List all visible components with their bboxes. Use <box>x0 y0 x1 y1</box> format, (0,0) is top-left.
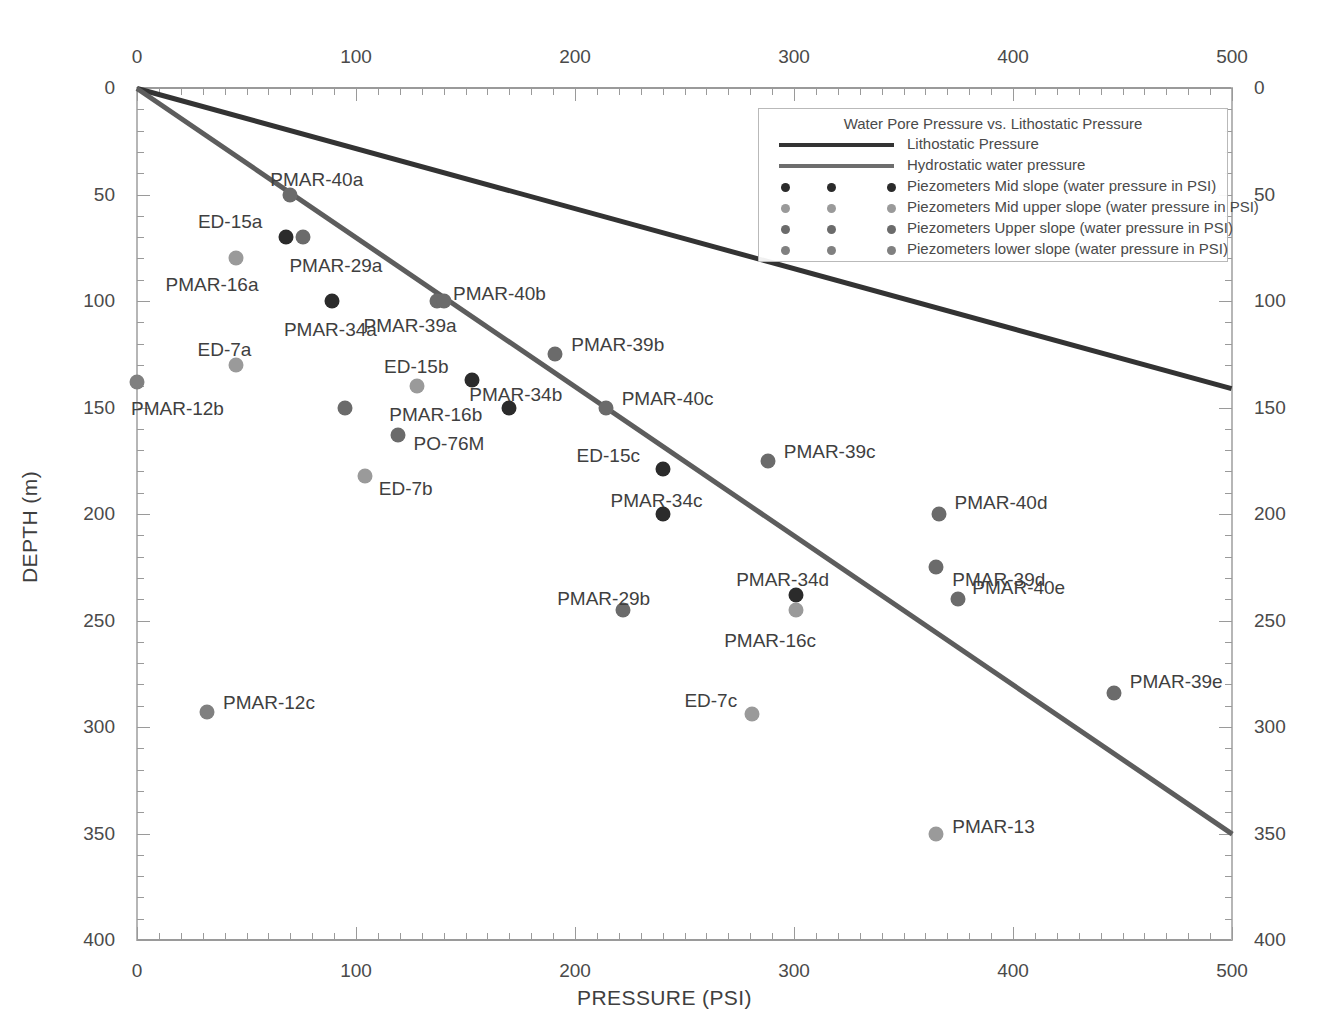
y-axis-title: DEPTH (m) <box>18 427 42 627</box>
x-tick-minor <box>1079 933 1080 940</box>
y-tick-minor <box>1225 280 1232 281</box>
y-tick-minor <box>137 663 144 664</box>
data-point-label: PMAR-16a <box>166 274 259 296</box>
legend-line-swatch <box>779 164 894 168</box>
data-point-marker <box>390 428 405 443</box>
x-tick-minor <box>728 933 729 940</box>
x-tick-label-bottom: 200 <box>559 960 591 982</box>
y-tick-minor <box>137 450 144 451</box>
legend-title: Water Pore Pressure vs. Lithostatic Pres… <box>759 115 1227 132</box>
x-tick-minor <box>378 933 379 940</box>
x-tick-major <box>137 927 138 940</box>
data-point-marker <box>278 230 293 245</box>
y-tick-minor <box>1225 493 1232 494</box>
x-tick-label-bottom: 100 <box>340 960 372 982</box>
y-tick-minor <box>137 684 144 685</box>
y-tick-label-right: 300 <box>1254 716 1286 738</box>
x-tick-minor <box>1144 88 1145 95</box>
x-tick-major <box>575 927 576 940</box>
data-point-label: PO-76M <box>414 433 485 455</box>
y-tick-minor <box>137 919 144 920</box>
data-point-label: ED-7c <box>684 690 737 712</box>
data-point-label: PMAR-34b <box>469 384 562 406</box>
legend-entry-label: Piezometers Upper slope (water pressure … <box>907 219 1233 236</box>
y-tick-minor <box>1225 365 1232 366</box>
x-tick-minor <box>772 933 773 940</box>
data-point-label: ED-7a <box>198 339 252 361</box>
y-tick-minor <box>137 344 144 345</box>
x-tick-minor <box>268 88 269 95</box>
y-tick-label-left: 250 <box>83 610 115 632</box>
x-tick-minor <box>334 88 335 95</box>
x-tick-minor <box>422 88 423 95</box>
x-tick-minor <box>772 88 773 95</box>
x-tick-minor <box>1101 933 1102 940</box>
x-tick-minor <box>553 933 554 940</box>
y-tick-minor <box>137 578 144 579</box>
y-tick-minor <box>137 535 144 536</box>
x-tick-minor <box>904 933 905 940</box>
legend-dot-swatch <box>827 246 836 255</box>
data-point-marker <box>931 507 946 522</box>
x-tick-minor <box>1035 88 1036 95</box>
x-tick-minor <box>750 933 751 940</box>
x-tick-minor <box>750 88 751 95</box>
y-tick-minor <box>1225 919 1232 920</box>
data-point-label: PMAR-39e <box>1130 671 1223 693</box>
x-tick-minor <box>181 933 182 940</box>
y-tick-minor <box>1225 855 1232 856</box>
y-tick-major <box>1219 88 1232 89</box>
x-tick-minor <box>969 88 970 95</box>
x-tick-minor <box>1123 88 1124 95</box>
y-tick-minor <box>1225 706 1232 707</box>
x-tick-minor <box>904 88 905 95</box>
data-point-marker <box>324 294 339 309</box>
data-point-label: PMAR-39b <box>571 334 664 356</box>
y-tick-major <box>137 301 150 302</box>
legend-dot-swatch <box>827 204 836 213</box>
x-tick-minor <box>531 933 532 940</box>
data-point-label: PMAR-16c <box>724 630 816 652</box>
y-tick-minor <box>137 237 144 238</box>
data-point-label: PMAR-39c <box>784 441 876 463</box>
x-tick-minor <box>1057 933 1058 940</box>
x-tick-minor <box>1057 88 1058 95</box>
y-tick-minor <box>137 216 144 217</box>
x-tick-minor <box>378 88 379 95</box>
x-tick-minor <box>466 88 467 95</box>
x-tick-minor <box>882 933 883 940</box>
x-tick-minor <box>400 933 401 940</box>
y-tick-minor <box>137 599 144 600</box>
x-tick-minor <box>225 88 226 95</box>
data-point-marker <box>436 294 451 309</box>
x-tick-minor <box>685 88 686 95</box>
data-point-label: PMAR-12c <box>223 692 315 714</box>
x-tick-minor <box>991 88 992 95</box>
data-point-marker <box>598 400 613 415</box>
y-tick-label-left: 300 <box>83 716 115 738</box>
y-tick-major <box>1219 621 1232 622</box>
legend-dot-swatch <box>887 183 896 192</box>
y-tick-minor <box>137 280 144 281</box>
x-tick-minor <box>816 933 817 940</box>
x-tick-minor <box>487 88 488 95</box>
y-tick-major <box>1219 301 1232 302</box>
x-tick-minor <box>509 933 510 940</box>
data-point-marker <box>655 462 670 477</box>
legend-entry-label: Piezometers Mid upper slope (water press… <box>907 198 1259 215</box>
x-tick-minor <box>947 933 948 940</box>
x-tick-minor <box>312 933 313 940</box>
x-tick-minor <box>882 88 883 95</box>
x-tick-minor <box>268 933 269 940</box>
x-tick-minor <box>597 933 598 940</box>
y-tick-minor <box>137 131 144 132</box>
x-tick-minor <box>225 933 226 940</box>
data-point-label: PMAR-29b <box>557 588 650 610</box>
y-tick-minor <box>1225 897 1232 898</box>
y-tick-label-right: 400 <box>1254 929 1286 951</box>
data-point-label: PMAR-40d <box>955 492 1048 514</box>
x-tick-minor <box>1101 88 1102 95</box>
y-tick-major <box>137 727 150 728</box>
legend-dot-swatch <box>781 246 790 255</box>
x-tick-minor <box>487 933 488 940</box>
